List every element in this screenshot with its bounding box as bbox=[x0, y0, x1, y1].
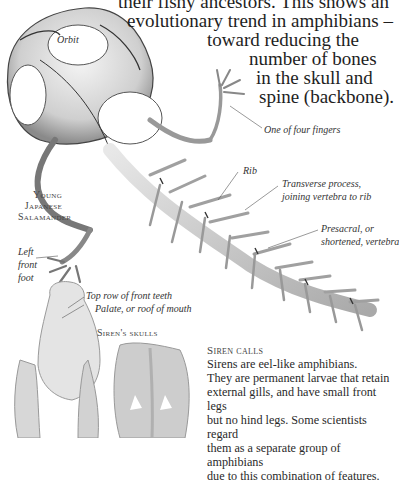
label-transverse-1: Transverse process, bbox=[282, 178, 361, 190]
label-presacral-1: Presacral, or bbox=[321, 223, 374, 235]
label-top-teeth: Top row of front teeth bbox=[86, 290, 172, 302]
label-left-front-foot: Left front foot bbox=[18, 245, 37, 284]
label-left-front-foot-line-2: front bbox=[18, 258, 37, 271]
siren-skulls-caption: Siren's skulls bbox=[97, 327, 158, 338]
intro-line-2: evolutionary trend in amphibians – bbox=[127, 11, 393, 31]
label-left-front-foot-line-3: foot bbox=[18, 271, 37, 284]
label-rib: Rib bbox=[243, 165, 257, 177]
leader-presacral bbox=[268, 230, 318, 248]
intro-line-4: number of bones bbox=[249, 49, 377, 69]
label-presacral-2: shortened, vertebra bbox=[321, 236, 399, 248]
label-transverse-2: joining vertebra to rib bbox=[282, 191, 371, 203]
leader-transverse bbox=[245, 186, 278, 210]
siren-top-skull-illustration bbox=[114, 343, 189, 438]
intro-line-3: toward reducing the bbox=[207, 30, 359, 50]
specimen-title-line-3: Salamander bbox=[18, 211, 62, 222]
label-palate: Palate, or roof of mouth bbox=[95, 303, 192, 315]
siren-calls-section: Siren calls Sirens are eel-like amphibia… bbox=[207, 344, 397, 483]
intro-line-5: in the skull and bbox=[256, 68, 373, 88]
siren-calls-line-5: them as a separate group of amphibians bbox=[207, 441, 397, 469]
leader-finger bbox=[230, 106, 262, 128]
siren-calls-line-4: but no hind legs. Some scientists regard bbox=[207, 413, 397, 441]
intro-line-6: spine (backbone). bbox=[259, 87, 394, 107]
specimen-title-line-2: Japanese bbox=[18, 200, 62, 211]
label-left-front-foot-line-1: Left bbox=[18, 245, 37, 258]
label-finger: One of four fingers bbox=[264, 124, 340, 136]
siren-calls-line-2: They are permanent larvae that retain bbox=[207, 371, 397, 385]
right-front-leg-illustration bbox=[150, 70, 244, 141]
siren-palate-skull-illustration bbox=[15, 282, 100, 438]
siren-calls-heading: Siren calls bbox=[207, 344, 397, 357]
label-orbit: Orbit bbox=[57, 34, 79, 46]
siren-calls-line-3: external gills, and have small front leg… bbox=[207, 385, 397, 413]
siren-calls-line-1: Sirens are eel-like amphibians. bbox=[207, 357, 397, 371]
siren-calls-line-6: due to this combination of features. bbox=[207, 469, 397, 483]
specimen-title: Young Japanese Salamander bbox=[18, 189, 62, 222]
specimen-title-line-1: Young bbox=[18, 189, 62, 200]
